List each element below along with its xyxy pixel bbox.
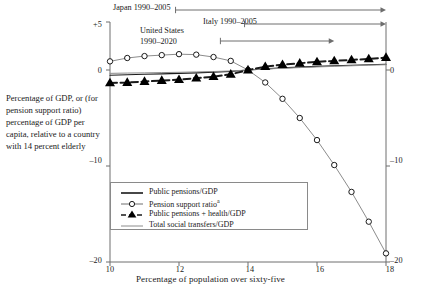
legend-key-solid-line xyxy=(119,187,145,198)
y-axis-label: Percentage of GDP, or (for pension suppo… xyxy=(6,92,108,152)
legend-footnote-marker: a xyxy=(217,198,220,204)
y-axis-tick-plus5: +5 xyxy=(80,20,102,31)
x-axis-label: Percentage of population over sixty-five xyxy=(0,274,421,286)
y-axis-tick-zero: 0 xyxy=(80,66,102,77)
legend-label-3: Total social transfers/GDP xyxy=(149,220,234,229)
legend-key-open-circle-line xyxy=(119,198,145,209)
y-axis-right-tick-minus10: –10 xyxy=(390,156,412,167)
y-axis-right-tick-zero: 0 xyxy=(390,66,412,77)
annotation-us-label-line1: United States xyxy=(140,26,184,35)
chart-legend: Public pensions/GDP Pension support rati… xyxy=(110,182,308,230)
y-axis-tick-minus10: –10 xyxy=(80,156,102,167)
legend-key-triangle-dashed-line xyxy=(119,209,145,220)
legend-label-0: Public pensions/GDP xyxy=(149,187,218,196)
annotation-us-label-line2: 1990–2020 xyxy=(140,37,177,46)
legend-key-thin-line xyxy=(119,220,145,231)
legend-label-2: Public pensions + health/GDP xyxy=(149,209,246,218)
annotation-japan-label: Japan 1990–2005 xyxy=(113,3,171,12)
legend-label-1: Pension support ratioa xyxy=(149,198,220,209)
annotation-italy-label: Italy 1990–2005 xyxy=(203,17,257,26)
chart-figure: +5 0 –10 –20 0 –10 –20 10 12 14 16 18 Pe… xyxy=(0,0,421,297)
